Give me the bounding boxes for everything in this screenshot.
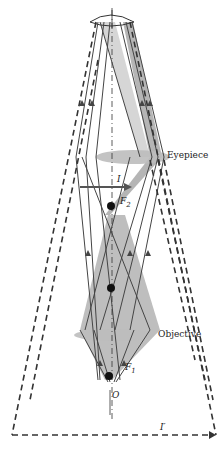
eyepiece-label: Eyepiece (167, 150, 208, 160)
focal-point-center (107, 284, 115, 292)
focal1-label: F1 (125, 362, 136, 375)
objective-label: Objective (158, 329, 201, 339)
microscope-ray-diagram (0, 0, 224, 451)
focal2-label: F2 (120, 196, 131, 209)
final-image-arrowhead (209, 431, 216, 439)
focal-point-f2 (107, 202, 115, 210)
shaded-ray-bundle-lower (80, 215, 160, 330)
focal-point-f1 (105, 372, 113, 380)
intermediate-image-label: I (117, 174, 121, 184)
object-label: O (112, 390, 119, 400)
final-image-label: I′ (160, 422, 166, 432)
objective-lens (74, 329, 154, 341)
